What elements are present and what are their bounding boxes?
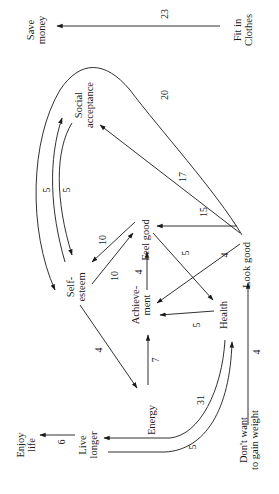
node-dont-want-gain-weight: Don't wantto gain weight: [238, 410, 261, 470]
means-end-diagram: 2320175510101545457443156 SavemoneyFit i…: [0, 0, 279, 494]
edge-weight-label: 20: [159, 90, 170, 100]
edge-weight-label: 4: [251, 350, 262, 355]
edge-weight-label: 23: [159, 9, 170, 19]
edge-weight-label: 7: [150, 358, 161, 363]
node-energy: Energy: [146, 404, 157, 435]
node-save-money: Savemoney: [25, 15, 48, 44]
nodes-layer: SavemoneyFit inClothesSocialacceptanceSe…: [15, 14, 261, 470]
node-label-line: ment: [141, 294, 152, 315]
edge-weight-label: 4: [93, 348, 104, 353]
node-label-line: Clothes: [243, 14, 254, 46]
edge-weight-label: 31: [195, 395, 206, 405]
node-label-line: money: [36, 15, 47, 44]
node-label-line: life: [26, 438, 37, 452]
node-label-line: Enjoy: [15, 432, 26, 458]
node-look-good: Look good: [241, 241, 252, 288]
edge-weight-label: 4: [133, 270, 144, 275]
node-label-line: to gain weight: [249, 410, 260, 470]
node-enjoy-life: Enjoylife: [15, 432, 38, 458]
edge-weight-label: 6: [56, 440, 67, 445]
node-achievement: Achieve-ment: [130, 285, 153, 324]
edge-health-to-achievement: [160, 311, 214, 315]
edge-weight-label: 5: [180, 251, 191, 256]
node-label-line: Don't want: [238, 417, 249, 463]
node-label-line: acceptance: [84, 82, 95, 128]
node-label-line: Achieve-: [130, 285, 141, 324]
edge-look-good-to-social-acceptance: [100, 125, 240, 233]
node-label-line: esteem: [76, 272, 87, 301]
edge-weight-label: 15: [198, 207, 209, 217]
edge-weight-label: 10: [97, 235, 108, 245]
edge-weight-label: 5: [191, 323, 202, 328]
node-label-line: Health: [218, 300, 229, 329]
node-self-esteem: Self-esteem: [65, 272, 88, 301]
edge-look-good-to-self-esteem: [36, 68, 242, 291]
edge-feel-good-to-health: [153, 233, 213, 300]
node-live-longer: Livelonger: [77, 431, 100, 458]
edge-weight-label: 17: [177, 172, 188, 182]
node-label-line: Save: [25, 19, 36, 40]
node-social-acceptance: Socialacceptance: [73, 82, 96, 128]
node-label-line: Social: [73, 92, 84, 118]
node-label-line: longer: [88, 431, 99, 458]
node-label-line: Energy: [146, 404, 157, 435]
node-feel-good: Feel good: [140, 218, 151, 260]
edge-weight-label: 10: [109, 271, 120, 281]
edge-self-esteem-to-energy: [80, 305, 137, 388]
node-label-line: Fit in: [232, 18, 243, 41]
edge-live-longer-to-health: [108, 342, 232, 452]
node-label-line: Look good: [241, 241, 252, 288]
node-label-line: Live: [77, 435, 88, 455]
edge-labels-layer: 2320175510101545457443156: [41, 9, 262, 450]
edge-weight-label: 5: [187, 445, 198, 450]
edge-weight-label: 5: [41, 188, 52, 193]
edge-health-to-live-longer: [104, 340, 225, 438]
edge-weight-label: 4: [219, 253, 230, 258]
node-label-line: Self-: [65, 276, 76, 297]
node-health: Health: [218, 300, 229, 329]
node-label-line: Feel good: [140, 218, 151, 260]
node-fit-in-clothes: Fit inClothes: [232, 14, 255, 46]
edge-weight-label: 5: [61, 188, 72, 193]
